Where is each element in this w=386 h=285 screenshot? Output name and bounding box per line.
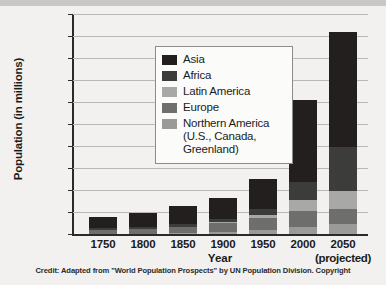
gridline xyxy=(72,234,368,236)
bar-1800 xyxy=(129,213,157,234)
gridline xyxy=(72,14,368,15)
bar-segment-asia xyxy=(129,213,157,227)
bar-segment-asia xyxy=(89,217,117,228)
legend-swatch-asia xyxy=(162,55,177,65)
bar-segment-africa xyxy=(329,147,357,191)
bar-1950 xyxy=(249,179,277,234)
y-axis-title: Population (in millions) xyxy=(12,24,24,214)
bar-segment-africa xyxy=(209,219,237,222)
bar-segment-europe xyxy=(209,223,237,232)
bar-1900 xyxy=(209,198,237,234)
credit-line: Credit: Adapted from "World Population P… xyxy=(0,266,386,275)
legend-label: Northern America(U.S., Canada, Greenland… xyxy=(183,117,287,156)
bar-segment-latin-america xyxy=(249,215,277,219)
legend-swatch-europe xyxy=(162,103,177,113)
x-axis-title: Year xyxy=(72,252,368,264)
bar-segment-europe xyxy=(129,229,157,233)
bar-1850 xyxy=(169,206,197,234)
y-tick-mark xyxy=(68,168,73,169)
legend-swatch-africa xyxy=(162,71,177,81)
plot-area: 10,0009,0008,0007,0006,0005,0004,0003,00… xyxy=(72,14,368,234)
bar-segment-latin-america xyxy=(329,191,357,209)
legend-label-continuation: (U.S., Canada, Greenland) xyxy=(183,130,287,156)
legend-swatch-latin-america xyxy=(162,87,177,97)
legend-item: Africa xyxy=(162,69,287,82)
x-tick-label-2050: 2050 xyxy=(315,238,371,250)
bar-segment-africa xyxy=(129,227,157,229)
y-tick-mark xyxy=(68,58,73,59)
legend-item: Northern America(U.S., Canada, Greenland… xyxy=(162,117,287,156)
legend-item: Latin America xyxy=(162,85,287,98)
legend: AsiaAfricaLatin AmericaEuropeNorthern Am… xyxy=(155,46,293,164)
y-tick-mark xyxy=(68,146,73,147)
bar-segment-latin-america xyxy=(209,222,237,224)
bar-segment-europe xyxy=(289,211,317,227)
bar-segment-asia xyxy=(249,179,277,210)
y-tick-mark xyxy=(68,102,73,103)
bar-2050 xyxy=(329,32,357,234)
bar-segment-europe xyxy=(249,218,277,230)
bar-segment-asia xyxy=(329,32,357,147)
bar-1750 xyxy=(89,217,117,234)
legend-item: Europe xyxy=(162,101,287,114)
bar-2000 xyxy=(289,100,317,234)
y-tick-mark xyxy=(68,212,73,213)
bar-segment-northern-america xyxy=(289,227,317,234)
bar-segment-africa xyxy=(249,209,277,214)
bar-segment-latin-america xyxy=(289,200,317,211)
legend-label: Latin America xyxy=(183,85,250,98)
bar-segment-africa xyxy=(169,224,197,226)
gridline xyxy=(72,168,368,169)
legend-label: Africa xyxy=(183,69,211,82)
bar-segment-asia xyxy=(209,198,237,219)
legend-swatch-northern-america xyxy=(162,119,177,129)
legend-label: Asia xyxy=(183,53,205,66)
bar-segment-asia xyxy=(169,206,197,224)
legend-item: Asia xyxy=(162,53,287,66)
legend-label: Europe xyxy=(183,101,219,114)
bar-segment-northern-america xyxy=(209,232,237,234)
bar-segment-africa xyxy=(289,182,317,200)
y-tick-mark xyxy=(68,124,73,125)
bar-segment-asia xyxy=(289,100,317,182)
bar-segment-northern-america xyxy=(249,230,277,234)
population-stacked-bar-chart: Population (in millions) 10,0009,0008,00… xyxy=(0,6,386,254)
gridline xyxy=(72,36,368,37)
bar-segment-europe xyxy=(89,230,117,234)
y-tick-mark xyxy=(68,36,73,37)
y-tick-mark xyxy=(68,234,73,235)
y-tick-mark xyxy=(68,190,73,191)
y-tick-mark xyxy=(68,14,73,15)
y-tick-mark xyxy=(68,80,73,81)
bar-segment-africa xyxy=(89,228,117,230)
gridline xyxy=(72,190,368,191)
bar-segment-europe xyxy=(329,209,357,224)
bar-segment-northern-america xyxy=(329,224,357,234)
bar-segment-europe xyxy=(169,227,197,233)
